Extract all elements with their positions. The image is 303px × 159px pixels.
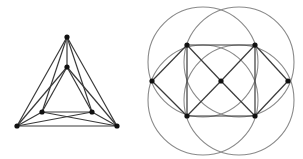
edge-bottom-right-center bbox=[221, 81, 255, 116]
node-bottom-right bbox=[252, 113, 257, 118]
node-inner-left bbox=[39, 109, 44, 114]
node-outer-left bbox=[14, 123, 19, 128]
edge-outer-right-inner-top bbox=[67, 67, 117, 126]
square-with-circles-graph bbox=[148, 7, 294, 155]
node-center bbox=[218, 78, 223, 83]
node-right bbox=[285, 78, 290, 83]
node-outer-right bbox=[114, 123, 119, 128]
edge-outer-left-inner-top bbox=[17, 67, 67, 126]
edge-left-top-left bbox=[152, 45, 187, 81]
node-top-left bbox=[184, 42, 189, 47]
node-inner-top bbox=[64, 64, 69, 69]
node-left bbox=[149, 78, 154, 83]
node-top-right bbox=[252, 42, 257, 47]
node-inner-right bbox=[89, 109, 94, 114]
edge-left-bottom-left bbox=[152, 81, 187, 116]
nested-triangles-graph bbox=[14, 34, 119, 128]
diagram-canvas bbox=[0, 0, 303, 159]
edge-right-top-right bbox=[255, 45, 288, 81]
edge-right-bottom-right bbox=[255, 81, 288, 116]
edge-bottom-left-center bbox=[187, 81, 221, 116]
node-bottom-left bbox=[184, 113, 189, 118]
node-outer-top bbox=[64, 34, 69, 39]
